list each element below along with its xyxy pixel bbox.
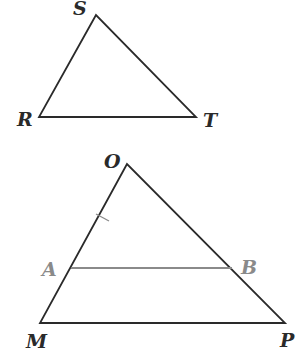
triangle-omp	[40, 164, 285, 323]
label-t: T	[203, 109, 219, 131]
label-r: R	[16, 108, 33, 130]
label-s: S	[73, 0, 87, 19]
label-m: M	[25, 330, 48, 352]
label-p: P	[279, 329, 295, 351]
label-b: B	[240, 256, 257, 278]
geometry-diagram: S R T O A B M P	[0, 0, 304, 353]
label-o: O	[104, 150, 121, 172]
label-a: A	[40, 258, 57, 280]
triangle-rst	[39, 15, 196, 117]
